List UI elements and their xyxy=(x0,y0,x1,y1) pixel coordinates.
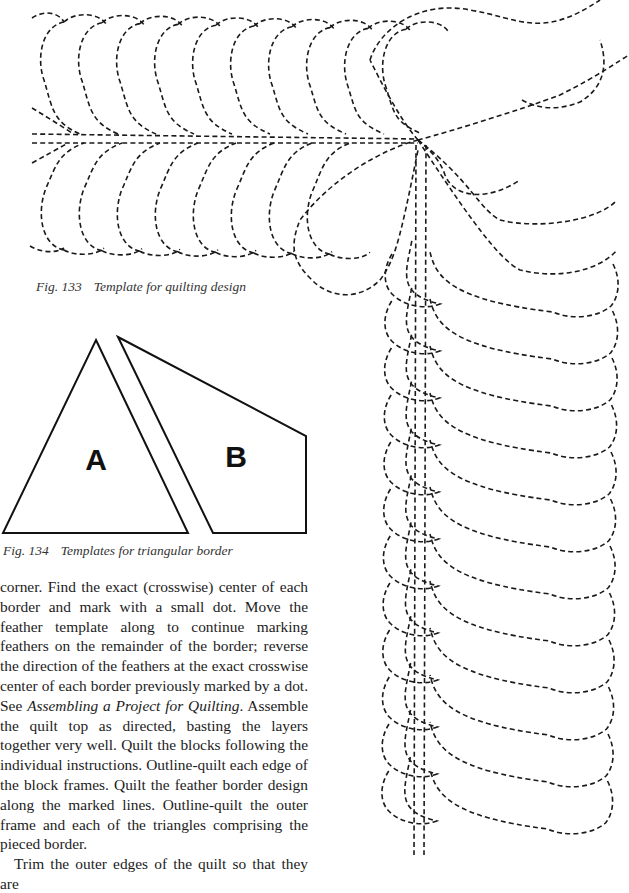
left-vertical-feather xyxy=(383,522,438,589)
right-vertical-feather xyxy=(430,299,618,364)
corner-lobe-right xyxy=(418,55,629,140)
bottom-feather xyxy=(193,143,256,257)
corner-inner-feather xyxy=(418,140,520,194)
left-vertical-feather xyxy=(383,569,438,636)
left-vertical-feather xyxy=(383,616,438,683)
corner-lobe-top xyxy=(370,0,600,140)
left-vertical-feather xyxy=(382,710,437,777)
text-run: . Assemble the quilt top as directed, ba… xyxy=(0,697,308,853)
top-feather xyxy=(79,16,144,134)
horizontal-spine-line xyxy=(32,134,418,139)
instructions-body-text: corner. Find the exact (crosswise) cente… xyxy=(0,577,308,893)
figure-133-caption: Fig. 133Template for quilting design xyxy=(36,279,246,295)
figure-134-caption: Fig. 134Templates for triangular border xyxy=(3,543,233,559)
figure-134-caption-text: Templates for triangular border xyxy=(61,543,233,558)
right-vertical-feather xyxy=(430,393,617,458)
template-b-outline xyxy=(118,337,306,533)
triangular-border-templates: AB xyxy=(3,337,306,533)
left-vertical-feather xyxy=(384,475,439,542)
corner-inner-feather xyxy=(418,140,617,274)
top-feather xyxy=(193,18,258,134)
feather-stem xyxy=(32,143,68,163)
bottom-feather xyxy=(41,143,104,254)
right-vertical-feather xyxy=(430,346,617,411)
figure-133-number: Fig. 133 xyxy=(36,279,82,294)
vertical-spine-line xyxy=(414,145,416,855)
figure-133-caption-text: Template for quilting design xyxy=(94,279,246,294)
left-vertical-feather xyxy=(383,663,438,730)
top-feather xyxy=(307,20,372,134)
text-run: corner. Find the exact (crosswise) cente… xyxy=(0,578,308,714)
top-feather xyxy=(345,21,410,134)
vertical-spine-line xyxy=(424,145,426,855)
top-feather xyxy=(269,20,334,134)
feather-stem xyxy=(32,108,72,133)
bottom-feather xyxy=(155,143,218,256)
figure-134-number: Fig. 134 xyxy=(3,543,49,558)
top-feather xyxy=(383,22,448,134)
right-vertical-feather xyxy=(430,252,618,317)
bottom-feather xyxy=(269,143,332,258)
text-run: Trim the outer edges of the quilt so tha… xyxy=(0,855,308,892)
body-paragraph: Trim the outer edges of the quilt so tha… xyxy=(0,854,308,893)
bottom-feather xyxy=(117,143,180,255)
bottom-feather xyxy=(231,143,294,257)
left-vertical-feather xyxy=(385,240,440,307)
top-feather xyxy=(41,15,106,134)
body-paragraph: corner. Find the exact (crosswise) cente… xyxy=(0,577,308,854)
top-feather xyxy=(231,19,296,134)
template-a-outline xyxy=(3,340,188,533)
left-vertical-feather xyxy=(385,287,440,354)
italic-reference: Assembling a Project for Quilting xyxy=(27,697,239,714)
left-vertical-feather xyxy=(382,757,437,824)
template-a-label: A xyxy=(85,443,107,476)
left-vertical-feather xyxy=(384,381,439,448)
top-feather xyxy=(117,16,182,134)
corner-inner-lobe xyxy=(522,40,604,108)
top-scallop xyxy=(32,13,64,22)
top-feather xyxy=(155,17,220,134)
left-vertical-feather xyxy=(384,428,439,495)
corner-lobe-bottom xyxy=(294,140,418,295)
bottom-scallop xyxy=(30,246,64,252)
bottom-feather xyxy=(79,143,142,255)
left-vertical-feather xyxy=(385,334,440,401)
template-b-label: B xyxy=(225,440,247,473)
